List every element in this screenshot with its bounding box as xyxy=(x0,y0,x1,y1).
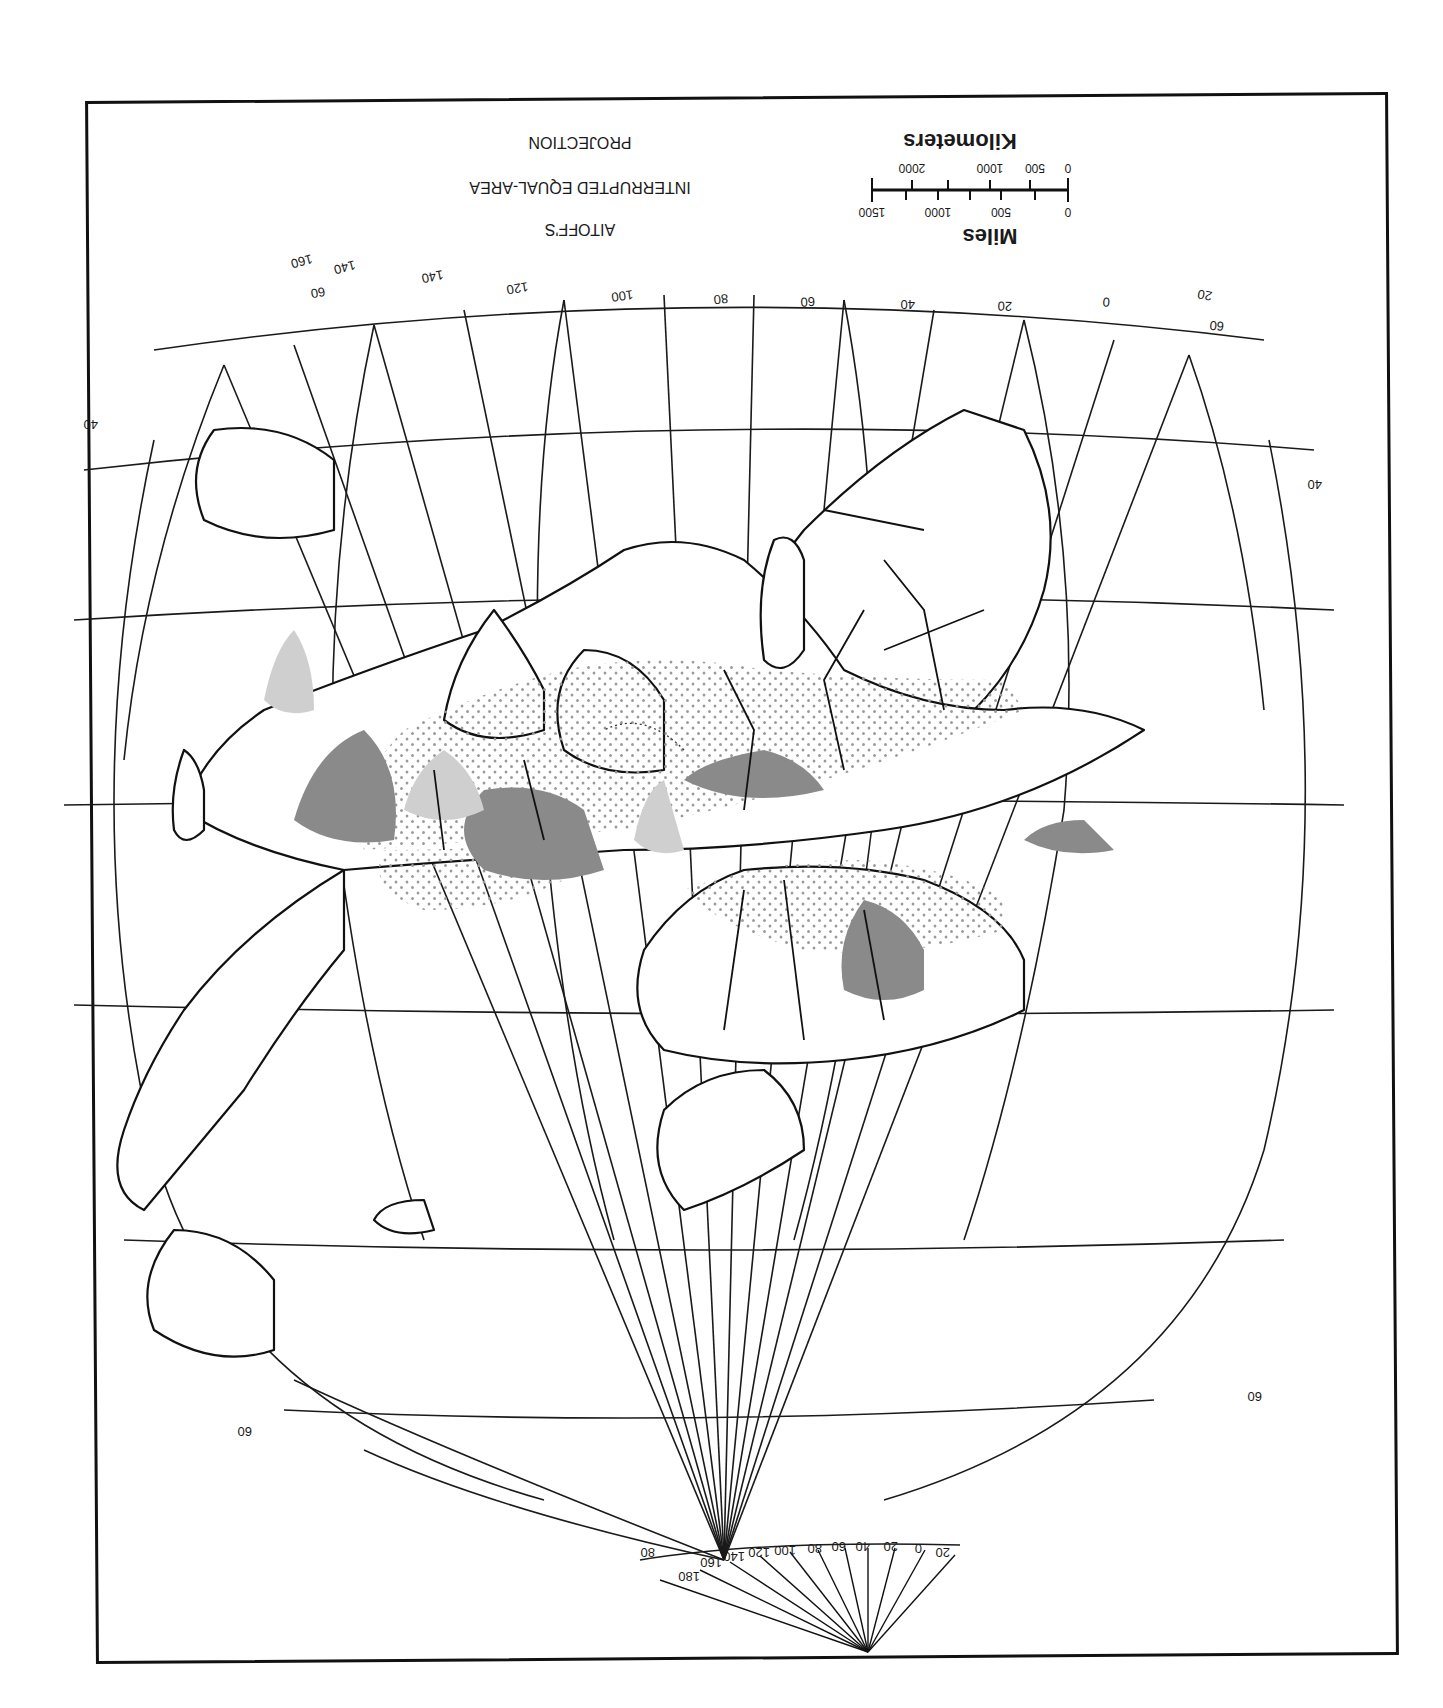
scale-bar: Kilometers 0 500 1000 2000 0 500 1000 15… xyxy=(858,129,1071,249)
svg-text:40: 40 xyxy=(856,1539,870,1554)
svg-text:160: 160 xyxy=(700,1555,722,1570)
svg-text:0: 0 xyxy=(1064,161,1071,175)
svg-text:20: 20 xyxy=(997,298,1012,313)
svg-text:40: 40 xyxy=(1308,477,1322,492)
svg-text:20: 20 xyxy=(1196,287,1213,304)
svg-text:AITOFF'S: AITOFF'S xyxy=(545,221,615,238)
svg-text:120: 120 xyxy=(505,279,529,298)
svg-text:120: 120 xyxy=(748,1545,770,1560)
svg-text:140: 140 xyxy=(332,257,357,277)
svg-text:20: 20 xyxy=(884,1539,898,1554)
scale-miles-label: Miles xyxy=(962,224,1017,249)
svg-text:INTERRUPTED EQUAL-AREA: INTERRUPTED EQUAL-AREA xyxy=(469,179,691,196)
svg-text:160: 160 xyxy=(289,251,314,271)
svg-text:80: 80 xyxy=(808,1541,822,1556)
svg-text:20: 20 xyxy=(936,1545,950,1560)
scale-km-label: Kilometers xyxy=(903,129,1017,154)
continents xyxy=(117,410,1144,1357)
svg-text:1500: 1500 xyxy=(858,205,885,219)
svg-text:500: 500 xyxy=(1025,161,1045,175)
svg-text:100: 100 xyxy=(774,1543,796,1558)
svg-text:2000: 2000 xyxy=(898,161,925,175)
svg-text:60: 60 xyxy=(1209,318,1225,334)
svg-text:60: 60 xyxy=(238,1424,252,1439)
svg-text:1000: 1000 xyxy=(924,205,951,219)
svg-text:500: 500 xyxy=(991,205,1011,219)
svg-text:PROJECTION: PROJECTION xyxy=(528,134,631,151)
svg-text:100: 100 xyxy=(611,287,635,305)
svg-text:40: 40 xyxy=(901,297,915,312)
map-figure: AITOFF'S INTERRUPTED EQUAL-AREA PROJECTI… xyxy=(0,0,1443,1708)
svg-text:0: 0 xyxy=(1064,205,1071,219)
svg-text:140: 140 xyxy=(420,267,444,286)
meridian-labels-bottom: 180 160 140 120 100 80 60 40 20 0 20 xyxy=(640,1539,960,1652)
svg-text:0: 0 xyxy=(1102,294,1111,310)
svg-text:60: 60 xyxy=(800,294,815,310)
svg-text:140: 140 xyxy=(723,1549,745,1564)
svg-text:60: 60 xyxy=(310,284,327,301)
svg-text:80: 80 xyxy=(713,291,729,307)
svg-text:1000: 1000 xyxy=(976,161,1003,175)
svg-text:40: 40 xyxy=(84,417,98,432)
meridian-labels-top: 160 140 140 120 100 80 60 40 20 0 20 xyxy=(289,251,1213,314)
svg-text:60: 60 xyxy=(1248,1389,1262,1404)
svg-text:0: 0 xyxy=(915,1541,922,1556)
svg-text:180: 180 xyxy=(678,1569,700,1584)
svg-text:60: 60 xyxy=(832,1539,846,1554)
projection-title: AITOFF'S INTERRUPTED EQUAL-AREA PROJECTI… xyxy=(469,134,691,238)
